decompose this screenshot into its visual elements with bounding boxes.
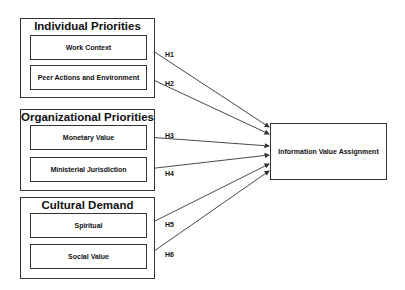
arrow-h6 xyxy=(147,171,269,256)
factor-social-value: Social Value xyxy=(30,244,147,269)
target-information-value-assignment: Information Value Assignment xyxy=(270,123,387,180)
factor-peer-actions: Peer Actions and Environment xyxy=(30,65,147,90)
label-h5: H5 xyxy=(165,221,174,228)
group-title: Organizational Priorities xyxy=(21,110,154,125)
group-title: Individual Priorities xyxy=(21,19,154,34)
label-h4: H4 xyxy=(165,170,174,177)
factor-monetary-value: Monetary Value xyxy=(30,125,147,150)
group-title: Cultural Demand xyxy=(21,198,154,213)
arrow-h4 xyxy=(147,155,269,169)
label-h6: H6 xyxy=(165,251,174,258)
factor-spiritual: Spiritual xyxy=(30,213,147,238)
arrow-h1 xyxy=(147,47,269,127)
label-h2: H2 xyxy=(165,80,174,87)
label-h3: H3 xyxy=(165,132,174,139)
factor-ministerial-jurisdiction: Ministerial Jurisdiction xyxy=(30,157,147,182)
label-h1: H1 xyxy=(165,51,174,58)
factor-work-context: Work Context xyxy=(30,35,147,60)
